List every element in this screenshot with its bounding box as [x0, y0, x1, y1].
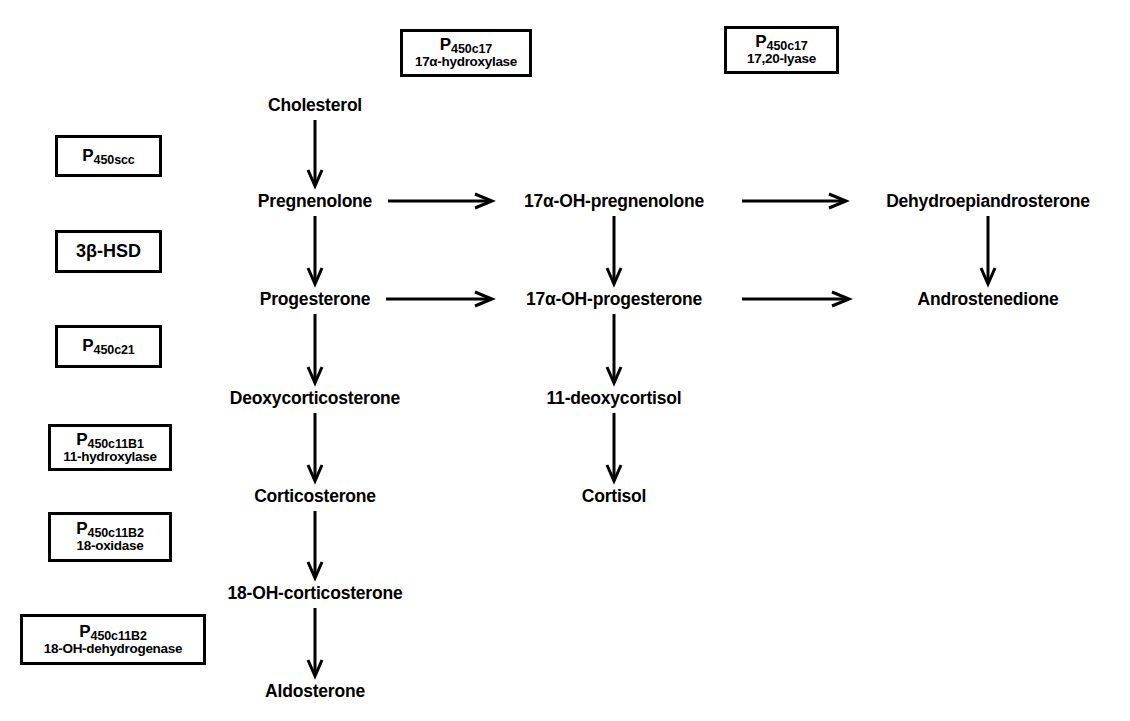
metabolite-corticosterone: Corticosterone [254, 486, 376, 507]
enzyme-name-main: P [79, 622, 90, 641]
metabolite-17a-oh-progesterone: 17α-OH-progesterone [526, 289, 702, 310]
enzyme-name-main: P [755, 32, 766, 51]
enzyme-box-p450scc: P450scc [55, 135, 162, 177]
enzyme-name-subscript: 450scc [94, 153, 135, 167]
enzyme-activity-p450c17-17-20-lyase: 17,20-lyase [747, 52, 816, 67]
metabolite-18-oh-corticosterone: 18-OH-corticosterone [228, 583, 403, 604]
enzyme-name-p450c11b1: P450c11B1 [76, 431, 144, 449]
arrow-progesterone-to-17a-oh-progesterone [386, 287, 492, 311]
arrow-corticosterone-to-18-oh-corticosterone [303, 511, 327, 578]
enzyme-name-subscript: 450c11B2 [88, 526, 144, 540]
arrow-11-deoxycortisol-to-cortisol [602, 413, 626, 481]
enzyme-label-3b-hsd: 3β-HSD [76, 242, 141, 261]
enzyme-name-subscript: 450c21 [94, 343, 135, 357]
enzyme-box-p450c11b2-18-oxidase: P450c11B218-oxidase [48, 512, 172, 562]
enzyme-name-p450c11b2-18-oxidase: P450c11B2 [76, 520, 144, 538]
arrow-cholesterol-to-pregnenolone [303, 120, 327, 186]
metabolite-11-deoxycortisol: 11-deoxycortisol [547, 388, 682, 409]
enzyme-box-3b-hsd: 3β-HSD [55, 230, 162, 273]
steroidogenesis-diagram: CholesterolPregnenoloneProgesteroneDeoxy… [0, 0, 1130, 721]
metabolite-dehydroepiandrosterone: Dehydroepiandrosterone [886, 191, 1090, 212]
arrow-progesterone-to-deoxycorticosterone [303, 314, 327, 383]
enzyme-box-p450c17-17-20-lyase: P450c1717,20-lyase [724, 26, 839, 74]
enzyme-name-main: P [82, 336, 93, 355]
arrow-pregnenolone-to-17a-oh-pregnenolone [388, 189, 492, 213]
enzyme-name-main: P [440, 35, 451, 54]
metabolite-cholesterol: Cholesterol [268, 95, 362, 116]
enzyme-name-p450c11b2-18-oh-dehydrogenase: P450c11B2 [79, 623, 147, 641]
enzyme-activity-p450c11b2-18-oxidase: 18-oxidase [77, 539, 144, 554]
enzyme-name-p450c17-17a-hydroxylase: P450c17 [440, 36, 492, 54]
enzyme-box-p450c11b2-18-oh-dehydrogenase: P450c11B218-OH-dehydrogenase [20, 614, 206, 665]
enzyme-name-p450scc: P450scc [82, 147, 134, 165]
metabolite-17a-oh-pregnenolone: 17α-OH-pregnenolone [524, 191, 704, 212]
arrow-17a-oh-pregnenolone-to-dhea [742, 189, 846, 213]
metabolite-aldosterone: Aldosterone [265, 681, 365, 702]
enzyme-name-subscript: 450c17 [451, 42, 492, 56]
enzyme-activity-p450c17-17a-hydroxylase: 17α-hydroxylase [415, 55, 517, 70]
arrow-17a-oh-progesterone-to-androstenedione [742, 287, 849, 311]
enzyme-name-subscript: 450c11B2 [91, 629, 147, 643]
arrow-18-oh-corticosterone-to-aldosterone [303, 608, 327, 676]
metabolite-deoxycorticosterone: Deoxycorticosterone [230, 388, 400, 409]
enzyme-activity-p450c11b2-18-oh-dehydrogenase: 18-OH-dehydrogenase [44, 642, 182, 657]
enzyme-box-p450c21: P450c21 [55, 325, 162, 368]
metabolite-cortisol: Cortisol [582, 486, 647, 507]
arrow-dhea-to-androstenedione [976, 216, 1000, 284]
enzyme-name-subscript: 450c17 [767, 39, 808, 53]
enzyme-name-main: P [76, 519, 87, 538]
arrow-pregnenolone-to-progesterone [303, 216, 327, 284]
metabolite-androstenedione: Androstenedione [918, 289, 1059, 310]
enzyme-name-p450c21: P450c21 [82, 337, 134, 355]
arrow-17a-oh-progesterone-to-11-deoxycortisol [602, 314, 626, 383]
enzyme-box-p450c11b1: P450c11B111-hydroxylase [48, 424, 172, 471]
enzyme-name-subscript: 450c11B1 [88, 437, 144, 451]
metabolite-progesterone: Progesterone [260, 289, 370, 310]
enzyme-name-p450c17-17-20-lyase: P450c17 [755, 33, 807, 51]
enzyme-name-main: P [82, 146, 93, 165]
arrow-17a-oh-pregnenolone-to-17a-oh-progesterone [602, 216, 626, 284]
enzyme-name-main: P [76, 430, 87, 449]
arrow-deoxycorticosterone-to-corticosterone [303, 413, 327, 481]
enzyme-box-p450c17-17a-hydroxylase: P450c1717α-hydroxylase [400, 29, 532, 77]
enzyme-activity-p450c11b1: 11-hydroxylase [63, 450, 156, 465]
metabolite-pregnenolone: Pregnenolone [258, 191, 372, 212]
